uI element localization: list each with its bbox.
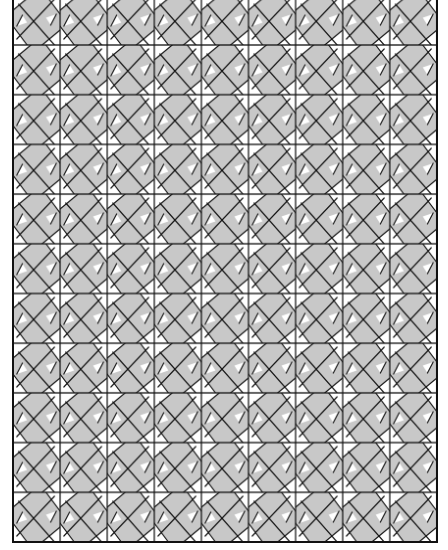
tiling-area <box>13 0 437 542</box>
tessellation-pattern <box>0 0 448 550</box>
